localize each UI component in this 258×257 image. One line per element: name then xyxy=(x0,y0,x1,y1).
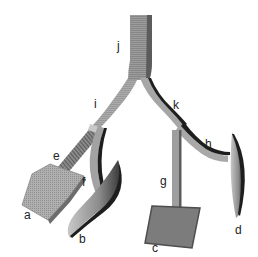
label-b: b xyxy=(79,233,86,245)
label-d: d xyxy=(235,224,242,236)
branch-h xyxy=(176,122,230,162)
label-c: c xyxy=(152,242,158,254)
label-i: i xyxy=(94,98,97,110)
label-g: g xyxy=(160,175,167,187)
label-k: k xyxy=(173,99,179,111)
trunk-j xyxy=(128,15,152,80)
label-a: a xyxy=(24,209,31,221)
leaf-d xyxy=(231,132,245,218)
branch-i xyxy=(90,78,138,128)
branch-k xyxy=(140,78,187,128)
label-f: f xyxy=(82,176,85,188)
branch-g xyxy=(172,130,182,210)
label-h: h xyxy=(205,138,212,150)
label-e: e xyxy=(53,150,60,162)
branching-diagram xyxy=(0,0,258,257)
label-j: j xyxy=(117,40,120,52)
